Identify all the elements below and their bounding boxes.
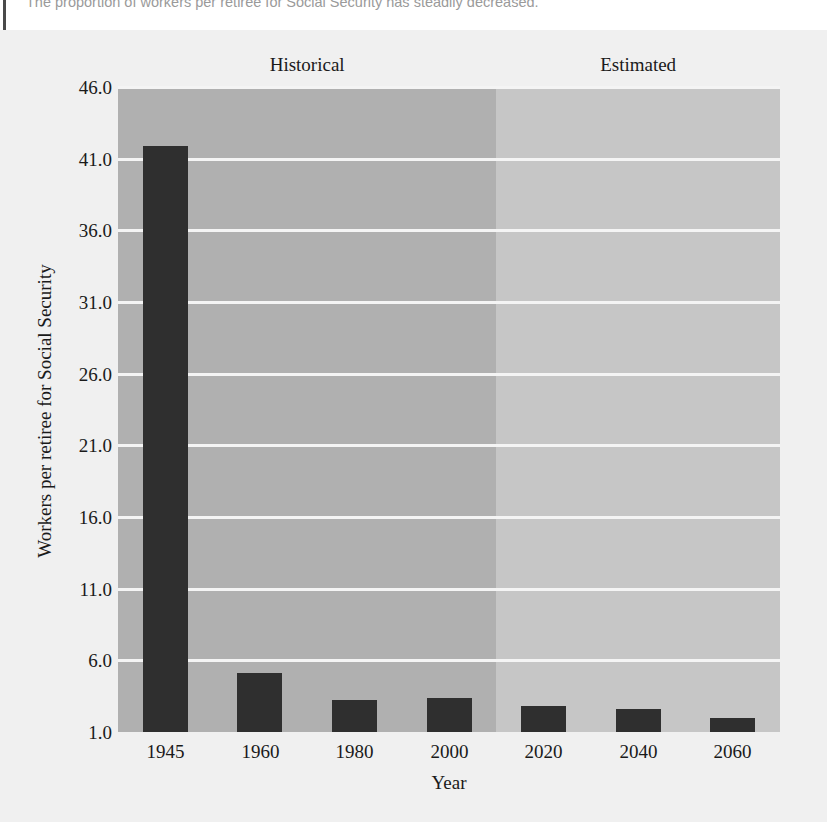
gridline [118,516,780,519]
page-header-strip: The proportion of workers per retiree fo… [0,0,827,30]
band-estimated [496,87,780,732]
band-label-estimated: Estimated [496,54,780,76]
x-tick-label: 1960 [213,740,308,764]
y-tick-label: 1.0 [8,723,112,742]
gridline [118,86,780,89]
y-tick-label: 26.0 [8,365,112,384]
y-axis-tick-labels: 46.041.036.031.026.021.016.011.06.01.0 [0,87,112,732]
page-margin-rule [3,0,6,30]
gridline [118,444,780,447]
bar-1945 [143,146,188,732]
band-label-historical: Historical [118,54,496,76]
y-tick-label: 16.0 [8,508,112,527]
bar-2020 [521,706,566,732]
x-tick-label: 1980 [307,740,402,764]
gridline [118,373,780,376]
gridline [118,588,780,591]
y-tick-label: 31.0 [8,293,112,312]
y-tick-label: 21.0 [8,436,112,455]
x-tick-label: 2020 [496,740,591,764]
x-axis-title: Year [118,772,780,794]
gridline [118,158,780,161]
bar-2000 [427,698,472,732]
figure-caption: The proportion of workers per retiree fo… [26,0,786,13]
x-axis-tick-labels: 1945196019802000202020402060 [118,740,780,768]
y-tick-label: 36.0 [8,221,112,240]
bar-2040 [616,709,661,732]
gridline [118,229,780,232]
x-tick-label: 2000 [402,740,497,764]
x-tick-label: 2040 [591,740,686,764]
bar-1960 [237,673,282,732]
y-tick-label: 11.0 [8,580,112,599]
x-tick-label: 1945 [118,740,213,764]
bar-1980 [332,700,377,732]
gridline [118,301,780,304]
figure-canvas: Workers per retiree for Social Security … [0,30,827,822]
x-tick-label: 2060 [685,740,780,764]
y-tick-label: 46.0 [8,78,112,97]
gridline [118,659,780,662]
y-tick-label: 6.0 [8,651,112,670]
y-tick-label: 41.0 [8,150,112,169]
plot-area [118,87,780,732]
bar-2060 [710,718,755,732]
